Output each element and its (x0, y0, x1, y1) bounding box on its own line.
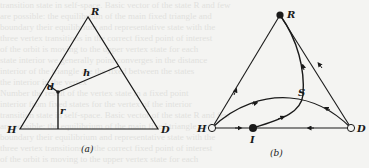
point-label-i: I (249, 134, 255, 145)
vertex-label-h-b: H (196, 123, 207, 134)
orbit-h-d (212, 98, 351, 128)
separatrix-r-i (253, 15, 303, 128)
node-i (249, 124, 257, 132)
panel-b: R H D I S (b) (196, 9, 366, 158)
segment-label-d: d (47, 81, 54, 92)
vertex-label-h: H (6, 124, 17, 135)
caption-a: (a) (81, 144, 94, 154)
node-r (276, 11, 283, 18)
arrow-curve-r (303, 66, 304, 70)
segment-label-h: h (83, 67, 90, 78)
vertex-label-r: R (90, 6, 99, 17)
node-d (347, 124, 354, 131)
vertex-label-d: D (160, 124, 170, 135)
caption-b: (b) (270, 148, 283, 158)
segment-label-r: r (60, 105, 66, 116)
figure-canvas: R H D d h r (a) R H D I S (b) (0, 0, 369, 168)
arrow-d-r (319, 64, 322, 68)
edge-h-r (212, 15, 280, 128)
panel-a: R H D d h r (a) (6, 6, 170, 154)
interior-point (56, 90, 60, 94)
point-label-s: S (298, 87, 305, 98)
node-h (208, 124, 215, 131)
vertex-label-d-b: D (356, 123, 366, 134)
vertex-label-r-b: R (286, 9, 295, 20)
